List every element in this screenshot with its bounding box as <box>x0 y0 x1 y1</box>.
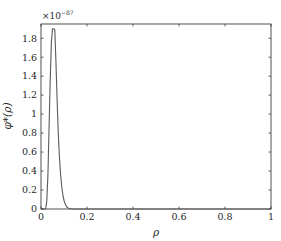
axes-box <box>41 24 271 209</box>
x-tick-label: 0.8 <box>217 211 232 222</box>
y-axis-multiplier: ×10−87 <box>42 9 74 21</box>
x-axis-ticks: 00.20.40.60.81 <box>38 24 274 222</box>
x-tick-label: 0 <box>38 211 44 222</box>
y-tick-label: 0 <box>31 203 37 214</box>
line-chart: 00.20.40.60.81 00.20.40.60.811.21.41.61.… <box>0 0 281 241</box>
data-series <box>41 29 271 209</box>
x-axis-label: ρ <box>152 226 160 238</box>
y-axis-label: φ*(ρ) <box>1 103 13 130</box>
y-tick-label: 1.6 <box>22 52 37 63</box>
x-tick-label: 1 <box>268 211 274 222</box>
y-tick-label: 1 <box>31 108 37 119</box>
y-axis-ticks: 00.20.40.60.811.21.41.61.8 <box>22 33 271 215</box>
y-tick-label: 0.2 <box>22 184 37 195</box>
y-tick-label: 1.8 <box>22 33 37 44</box>
y-tick-label: 1.4 <box>22 70 37 81</box>
y-tick-label: 1.2 <box>22 89 37 100</box>
x-tick-label: 0.6 <box>171 211 186 222</box>
plot-frame <box>41 24 271 209</box>
series-line <box>41 29 271 209</box>
y-tick-label: 0.4 <box>22 165 37 176</box>
x-tick-label: 0.2 <box>79 211 94 222</box>
x-tick-label: 0.4 <box>125 211 140 222</box>
y-tick-label: 0.8 <box>22 127 37 138</box>
y-tick-label: 0.6 <box>22 146 37 157</box>
